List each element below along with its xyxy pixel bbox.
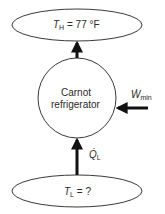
- work-subscript: min: [140, 94, 151, 101]
- device-label-line2: refrigerator: [51, 99, 100, 110]
- hot-temp-value: = 77 °F: [64, 19, 99, 30]
- work-input-label: Ẇmin: [131, 89, 152, 103]
- heat-input-label: Q̇L: [89, 149, 101, 163]
- heat-subscript: L: [97, 154, 101, 161]
- device-name-2: refrigerator: [51, 99, 100, 110]
- hot-reservoir-label: TH = 77 °F: [53, 19, 100, 33]
- cold-temp-value: = ?: [74, 186, 91, 197]
- cold-reservoir-label: TL = ?: [64, 186, 91, 200]
- device-label-line1: Carnot: [61, 87, 91, 98]
- refrigerator-circle: [38, 58, 116, 138]
- device-name-1: Carnot: [61, 87, 91, 98]
- heat-symbol: Q̇: [89, 149, 97, 160]
